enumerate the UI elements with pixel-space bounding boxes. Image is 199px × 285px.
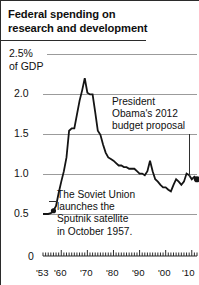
x-tick-label-53: '53 [36, 268, 49, 278]
sputnik-annotation-leader-line [49, 201, 57, 202]
x-tick-label-80: '80 [106, 268, 119, 278]
obama-annotation-leader-line [189, 134, 190, 177]
sputnik-marker [51, 208, 56, 213]
sputnik-annotation-line-4: in October 1957. [57, 226, 135, 238]
sputnik-annotation: The Soviet Union launches the Sputnik sa… [57, 189, 135, 238]
sputnik-annotation-line-2: launches the [57, 201, 135, 213]
data-series-svg [1, 1, 199, 285]
obama-annotation-line-1: President [112, 96, 185, 108]
x-tick-label-00: '00 [158, 268, 171, 278]
obama-annotation: President Obama's 2012 budget proposal [112, 96, 185, 133]
plot-area: 2.5% of GDP 2.0 1.5 1.0 0.5 0 '53 '60 '7… [1, 1, 199, 285]
sputnik-annotation-line-1: The Soviet Union [57, 189, 135, 201]
sputnik-annotation-line-3: Sputnik satellite [57, 213, 135, 225]
chart-figure: Federal spending on research and develop… [0, 0, 199, 285]
x-tick-label-70: '70 [80, 268, 93, 278]
x-tick-label-90: '90 [132, 268, 145, 278]
obama-annotation-line-2: Obama's 2012 [112, 108, 185, 120]
x-axis-ticks [43, 250, 197, 256]
x-tick-label-10: '10 [182, 268, 195, 278]
x-tick-label-60: '60 [54, 268, 67, 278]
obama-annotation-line-3: budget proposal [112, 120, 185, 132]
